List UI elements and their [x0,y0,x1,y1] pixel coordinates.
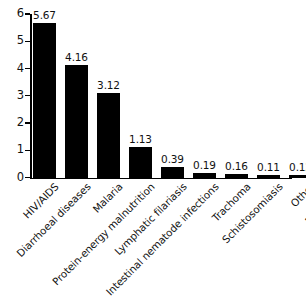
bar[interactable] [193,173,216,178]
y-tick-mark [25,150,30,151]
bar[interactable] [161,167,184,178]
y-tick-label: 3 [0,90,24,102]
bar[interactable] [97,93,120,178]
y-tick-label: 0 [0,172,24,184]
y-tick-label: 2 [0,117,24,129]
bar-value-label: 0.12 [285,162,307,173]
plot-area: 0123456 5.674.163.121.130.390.190.160.11… [0,0,306,302]
y-tick-label: 5 [0,35,24,47]
y-tick-mark [25,122,30,123]
y-tick-label: 1 [0,144,24,156]
bar-value-label: 0.16 [221,161,253,172]
bar-value-label: 3.12 [93,80,125,91]
bar-value-label: 5.67 [29,10,61,21]
bar-value-label: 0.11 [253,162,285,173]
bar[interactable] [65,65,88,178]
bar-value-label: 1.13 [125,134,157,145]
y-tick-mark [25,95,30,96]
bar-value-label: 4.16 [61,52,93,63]
bar-value-label: 0.19 [189,160,221,171]
y-tick-mark [25,177,30,178]
bar-chart: 0123456 5.674.163.121.130.390.190.160.11… [0,0,306,302]
bar[interactable] [33,23,56,178]
y-tick-label: 6 [0,8,24,20]
y-tick-mark [25,41,30,42]
y-tick-mark [25,68,30,69]
bar[interactable] [225,174,248,178]
bar[interactable] [289,175,306,178]
y-tick-label: 4 [0,63,24,75]
x-category-label: Schistosomiasis [220,181,284,245]
bar[interactable] [129,147,152,178]
y-axis-line [30,14,32,179]
bar-value-label: 0.39 [157,154,189,165]
bar[interactable] [257,175,280,178]
x-category-label: Other [288,181,306,209]
